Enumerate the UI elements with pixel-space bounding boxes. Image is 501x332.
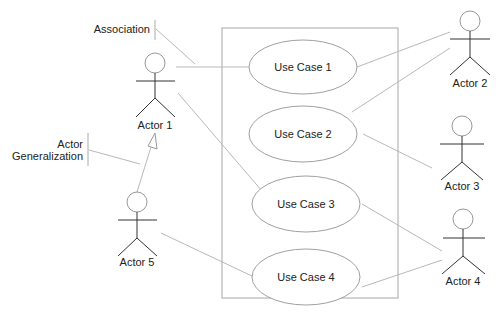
generalization-arrowhead-icon [148, 133, 157, 149]
actor-2-label: Actor 2 [453, 77, 488, 89]
assoc-actor5-uc4 [161, 233, 254, 277]
use-case-1-label: Use Case 1 [274, 61, 331, 73]
use-case-2-label: Use Case 2 [274, 128, 331, 140]
actor-1-head-icon [145, 53, 165, 73]
assoc-actor1-uc3 [178, 93, 262, 191]
actor-2[interactable]: Actor 2 [450, 11, 490, 89]
actor-4-label: Actor 4 [446, 275, 481, 287]
assoc-actor2-uc2 [352, 48, 450, 112]
use-case-diagram: Association Actor Generalization Use Cas… [0, 0, 501, 332]
generalization-label-line2: Generalization [12, 150, 83, 162]
use-case-2[interactable]: Use Case 2 [249, 106, 357, 162]
actor-2-head-icon [460, 11, 480, 31]
assoc-actor4-uc4 [362, 260, 442, 287]
actor-3[interactable]: Actor 3 [440, 116, 484, 192]
assoc-actor2-uc1 [357, 32, 450, 67]
actor-1-label: Actor 1 [138, 119, 173, 131]
use-case-4-label: Use Case 4 [277, 271, 334, 283]
generalization-line [137, 147, 151, 192]
use-case-4[interactable]: Use Case 4 [252, 249, 360, 305]
generalization-label-line1: Actor [57, 138, 83, 150]
actor-5[interactable]: Actor 5 [118, 192, 157, 268]
generalization-arrow [137, 133, 157, 192]
actor-1[interactable]: Actor 1 [136, 53, 175, 131]
generalization-note-leader [89, 150, 140, 164]
actor-4[interactable]: Actor 4 [442, 209, 485, 287]
actor-3-head-icon [452, 116, 472, 136]
actor-5-head-icon [127, 192, 147, 212]
assoc-actor4-uc3 [362, 204, 442, 251]
actor-4-head-icon [453, 209, 473, 229]
use-case-3-label: Use Case 3 [277, 198, 334, 210]
association-label: Association [94, 23, 150, 35]
association-annotation: Association [94, 20, 195, 64]
generalization-annotation: Actor Generalization [12, 133, 140, 166]
actor-3-label: Actor 3 [445, 180, 480, 192]
actor-5-label: Actor 5 [120, 256, 155, 268]
use-case-1[interactable]: Use Case 1 [249, 40, 357, 94]
use-case-3[interactable]: Use Case 3 [252, 176, 360, 232]
